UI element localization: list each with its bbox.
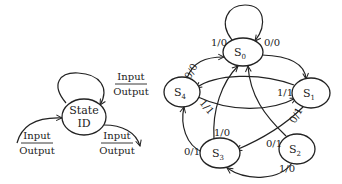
outgoing-input: Input (103, 130, 130, 141)
label-s3-s0: 1/0 (214, 127, 230, 138)
label-s3-s4: 0/1 (184, 146, 200, 157)
state-s2: S2 (279, 134, 315, 164)
label-s0-s1: 0/0 (264, 37, 280, 48)
fsm-diagram: S0 S1 S2 S3 S4 1/0 0/0 0/0 1/1 1/1 0/1 1… (164, 5, 330, 177)
incoming-input: Input (23, 130, 50, 141)
incoming-output: Output (19, 145, 55, 156)
label-s2-s0: 0/1 (266, 138, 282, 149)
state-id-label-line1: State (69, 104, 98, 117)
label-s4-s1: 1/1 (197, 97, 216, 116)
self-loop-input: Input (117, 71, 144, 82)
self-loop-output: Output (113, 86, 149, 97)
label-s0-s0: 1/0 (211, 37, 227, 48)
state-s0: S0 (223, 38, 263, 66)
outgoing-output: Output (99, 145, 135, 156)
label-s1-s4: 1/1 (277, 87, 293, 98)
edge-s0-s1 (262, 55, 306, 79)
label-s2-s3: 1/0 (279, 163, 295, 174)
state-diagram: State ID Input Output Input Output Input… (0, 0, 342, 184)
state-s1: S1 (292, 78, 330, 108)
label-s4-s0: 0/0 (182, 62, 200, 81)
generic-state-legend: State ID Input Output Input Output Input… (17, 71, 149, 156)
state-s3: S3 (200, 138, 240, 168)
edge-s0-s0 (225, 5, 262, 41)
state-s4: S4 (164, 77, 200, 107)
state-id-label-line2: ID (77, 117, 90, 130)
